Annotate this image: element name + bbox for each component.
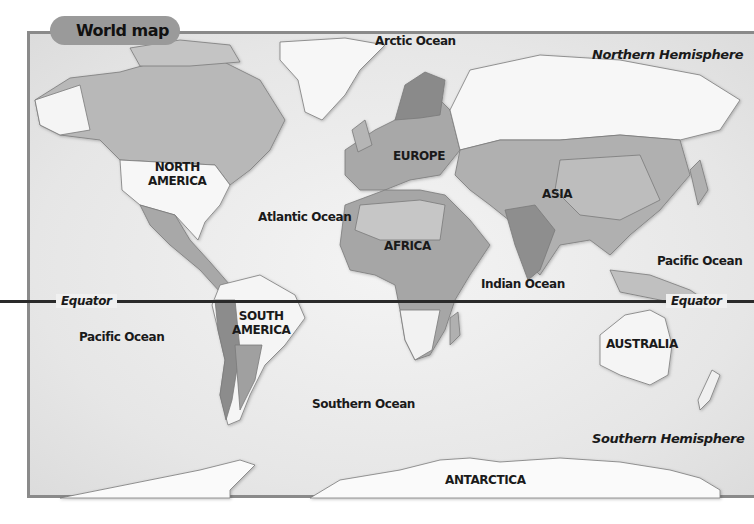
antarctic-peninsula [60, 460, 255, 498]
russia [450, 55, 740, 150]
arctic-ocean-label: Arctic Ocean [375, 34, 456, 48]
greenland [280, 38, 385, 120]
south-america-label: SOUTH AMERICA [232, 310, 290, 338]
northern-hemisphere-label: Northern Hemisphere [592, 47, 743, 62]
africa-label: AFRICA [384, 240, 431, 254]
europe-label: EUROPE [393, 150, 445, 164]
scandinavia [395, 72, 445, 120]
equator-label-left: Equator [56, 294, 117, 308]
south-africa [400, 310, 440, 360]
map-title: World map [50, 16, 180, 45]
pacific-ocean-west-label: Pacific Ocean [79, 330, 164, 344]
southern-ocean-label: Southern Ocean [312, 397, 415, 411]
asia-label: ASIA [542, 188, 572, 202]
madagascar [450, 312, 460, 345]
indian-ocean-label: Indian Ocean [481, 277, 565, 291]
japan [690, 160, 708, 205]
pacific-ocean-east-label: Pacific Ocean [657, 254, 742, 268]
sahara [355, 200, 445, 240]
southern-hemisphere-label: Southern Hemisphere [592, 431, 744, 446]
atlantic-ocean-label: Atlantic Ocean [258, 210, 351, 224]
new-zealand [698, 370, 720, 410]
equator-label-right: Equator [666, 294, 727, 308]
alaska [35, 85, 90, 135]
north-america-label: NORTH AMERICA [148, 161, 206, 189]
australia-label: AUSTRALIA [606, 338, 678, 352]
antarctica-label: ANTARCTICA [445, 474, 526, 488]
